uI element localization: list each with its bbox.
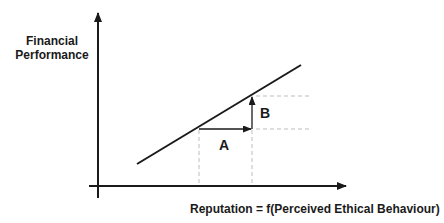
label-b: B <box>260 105 270 121</box>
diagram-canvas: Financial Performance Reputation = f(Per… <box>0 0 444 223</box>
y-axis-label-line1: Financial <box>10 34 94 48</box>
guide-lines <box>199 96 310 186</box>
y-axis-label: Financial Performance <box>10 34 94 62</box>
y-axis-label-line2: Performance <box>10 48 94 62</box>
x-axis-label: Reputation = f(Perceived Ethical Behavio… <box>190 202 440 216</box>
label-a: A <box>219 137 229 153</box>
